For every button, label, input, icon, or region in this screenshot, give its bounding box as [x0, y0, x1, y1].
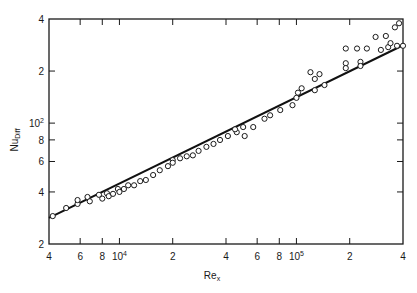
- data-point: [268, 113, 273, 118]
- data-point: [394, 43, 399, 48]
- data-point: [143, 177, 148, 182]
- data-point: [190, 153, 195, 158]
- data-point: [312, 88, 317, 93]
- data-point: [126, 183, 131, 188]
- x-tick-label: 4: [223, 251, 229, 262]
- data-point: [217, 137, 222, 142]
- data-point: [317, 72, 322, 77]
- data-point: [358, 63, 363, 68]
- data-point: [308, 70, 313, 75]
- x-tick-label: 2: [347, 251, 353, 262]
- y-tick-label: 102: [29, 117, 44, 129]
- data-point: [295, 90, 300, 95]
- chart: 468104246810524 246810224 Rex NuDiff: [0, 0, 417, 293]
- data-point: [312, 76, 317, 81]
- data-point: [290, 103, 295, 108]
- data-point: [396, 21, 401, 26]
- x-tick-label: 8: [100, 251, 106, 262]
- y-tick-label: 2: [38, 66, 44, 77]
- data-point: [322, 82, 327, 87]
- data-point: [378, 47, 383, 52]
- fit-line: [49, 45, 403, 218]
- data-point: [196, 148, 201, 153]
- data-point: [242, 133, 247, 138]
- data-point: [294, 95, 299, 100]
- data-point: [299, 86, 304, 91]
- data-point: [354, 46, 359, 51]
- data-point: [87, 199, 92, 204]
- y-tick-label: 2: [38, 239, 44, 250]
- data-point: [170, 160, 175, 165]
- x-tick-label: 2: [170, 251, 176, 262]
- data-point: [204, 144, 209, 149]
- data-point: [343, 46, 348, 51]
- data-point: [211, 141, 216, 146]
- data-point: [251, 124, 256, 129]
- data-point: [50, 213, 55, 218]
- data-point: [278, 107, 283, 112]
- data-point: [64, 205, 69, 210]
- x-axis-title: Rex: [204, 270, 221, 282]
- data-point: [75, 197, 80, 202]
- x-axis-ticks: 468104246810524: [46, 19, 406, 262]
- data-point: [373, 34, 378, 39]
- data-point: [100, 196, 105, 201]
- x-tick-label: 4: [400, 251, 406, 262]
- data-point: [383, 33, 388, 38]
- data-points: [50, 21, 405, 219]
- data-point: [184, 154, 189, 159]
- data-point: [157, 168, 162, 173]
- data-point: [110, 191, 115, 196]
- data-point: [388, 41, 393, 46]
- x-tick-label: 6: [77, 251, 83, 262]
- x-tick-label: 6: [254, 251, 260, 262]
- data-point: [241, 124, 246, 129]
- y-tick-label: 8: [38, 135, 44, 146]
- y-tick-label: 4: [38, 187, 44, 198]
- data-point: [392, 25, 397, 30]
- data-point: [165, 164, 170, 169]
- x-tick-label: 8: [277, 251, 283, 262]
- data-point: [177, 156, 182, 161]
- data-point: [364, 46, 369, 51]
- data-point: [151, 172, 156, 177]
- data-point: [343, 66, 348, 71]
- data-point: [262, 116, 267, 121]
- y-tick-label: 6: [38, 156, 44, 167]
- x-tick-label: 4: [46, 251, 52, 262]
- data-point: [131, 183, 136, 188]
- y-tick-label: 4: [38, 14, 44, 25]
- data-point: [138, 179, 143, 184]
- data-point: [400, 43, 405, 48]
- data-point: [225, 133, 230, 138]
- y-axis-title: NuDiff: [9, 128, 21, 151]
- correlation-line: [49, 45, 403, 218]
- data-point: [232, 127, 237, 132]
- x-tick-label: 104: [112, 250, 127, 262]
- x-tick-label: 105: [289, 250, 304, 262]
